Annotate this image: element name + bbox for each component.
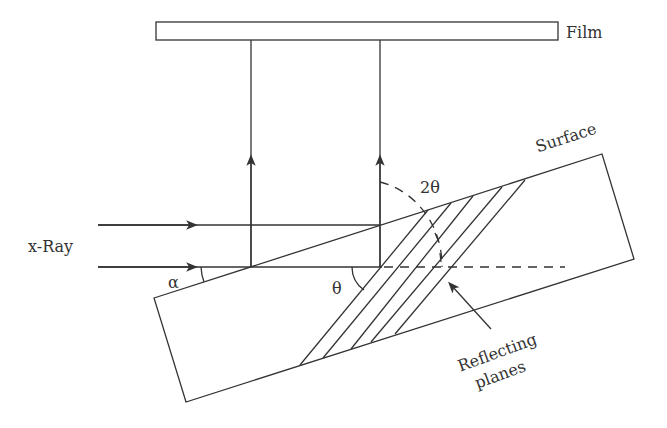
theta-arc [352, 267, 364, 290]
surface-label: Surface [533, 119, 599, 156]
alpha-label: α [168, 273, 179, 292]
film-plate [156, 22, 558, 40]
theta-label: θ [332, 279, 342, 298]
alpha-arc [201, 267, 204, 282]
reflecting-planes [300, 180, 525, 365]
reflecting-planes-label: Reflecting planes [455, 329, 539, 392]
crystal-specimen [154, 154, 634, 402]
xray-label: x-Ray [28, 237, 73, 256]
reflecting-planes-pointer [452, 286, 491, 329]
xrd-diagram: Film x-Ray Surface α θ 2θ [0, 0, 667, 428]
two-theta-label: 2θ [420, 178, 440, 197]
film-label: Film [566, 23, 603, 42]
